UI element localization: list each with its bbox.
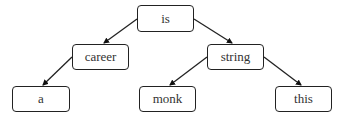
node-label: string xyxy=(221,49,251,65)
node-label: career xyxy=(85,49,117,65)
node-label: a xyxy=(38,91,44,107)
edge-string-monk xyxy=(170,57,207,85)
node-monk: monk xyxy=(139,86,196,112)
edge-is-string xyxy=(194,19,232,43)
node-string: string xyxy=(207,44,264,70)
node-is: is xyxy=(137,5,194,32)
edge-career-a xyxy=(43,57,72,85)
edge-string-this xyxy=(264,57,301,85)
node-label: is xyxy=(161,11,170,27)
node-career: career xyxy=(72,44,129,70)
node-this: this xyxy=(275,86,332,112)
edge-is-career xyxy=(104,19,137,43)
node-label: monk xyxy=(153,91,183,107)
node-label: this xyxy=(294,91,313,107)
node-a: a xyxy=(12,86,70,112)
